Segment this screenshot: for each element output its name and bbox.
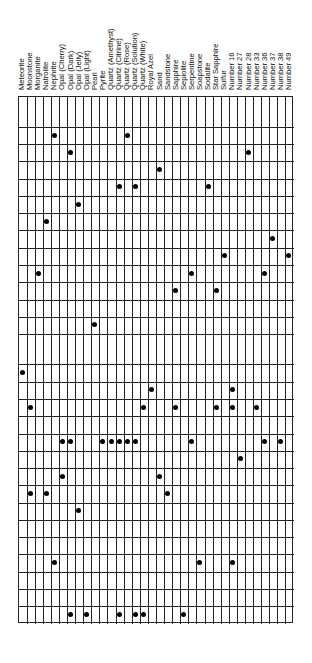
data-dot xyxy=(60,439,65,444)
grid-column-line xyxy=(35,97,36,624)
data-dot xyxy=(262,271,267,276)
chart-grid xyxy=(18,96,293,623)
data-dot xyxy=(117,612,122,617)
grid-row-line xyxy=(19,300,294,301)
data-dot xyxy=(117,439,122,444)
data-dot xyxy=(238,456,243,461)
grid-row-line xyxy=(19,589,294,590)
grid-column-line xyxy=(245,97,246,624)
grid-row-line xyxy=(19,537,294,538)
grid-column-line xyxy=(132,97,133,624)
data-dot xyxy=(52,560,57,565)
data-dot xyxy=(84,612,89,617)
grid-column-line xyxy=(213,97,214,624)
grid-row-line xyxy=(19,230,294,231)
grid-row-line xyxy=(19,282,294,283)
grid-column-line xyxy=(67,97,68,624)
grid-column-line xyxy=(253,97,254,624)
data-dot xyxy=(133,184,138,189)
data-dot xyxy=(206,184,211,189)
grid-column-line xyxy=(43,97,44,624)
grid-column-line xyxy=(188,97,189,624)
data-dot xyxy=(286,253,291,258)
grid-row-line xyxy=(19,317,294,318)
grid-row-line xyxy=(19,503,294,504)
data-dot xyxy=(278,439,283,444)
data-dot xyxy=(230,560,235,565)
data-dot xyxy=(20,370,25,375)
grid-column-line xyxy=(107,97,108,624)
data-dot xyxy=(141,612,146,617)
data-dot xyxy=(133,439,138,444)
data-dot xyxy=(189,271,194,276)
data-dot xyxy=(222,253,227,258)
grid-column-line xyxy=(196,97,197,624)
data-dot xyxy=(214,288,219,293)
data-dot xyxy=(76,202,81,207)
grid-row-line xyxy=(19,606,294,607)
grid-column-line xyxy=(277,97,278,624)
grid-row-line xyxy=(19,416,294,417)
grid-column-line xyxy=(180,97,181,624)
grid-column-line xyxy=(140,97,141,624)
data-dot xyxy=(68,439,73,444)
grid-row-line xyxy=(19,265,294,266)
grid-row-line xyxy=(19,451,294,452)
grid-column-line xyxy=(51,97,52,624)
grid-column-line xyxy=(59,97,60,624)
data-dot xyxy=(133,612,138,617)
data-dot xyxy=(254,405,259,410)
data-dot xyxy=(109,439,114,444)
grid-column-line xyxy=(221,97,222,624)
grid-row-line xyxy=(19,399,294,400)
grid-column-line xyxy=(172,97,173,624)
data-dot xyxy=(270,236,275,241)
grid-column-line xyxy=(116,97,117,624)
grid-row-line xyxy=(19,364,294,365)
data-dot xyxy=(246,150,251,155)
data-dot xyxy=(230,405,235,410)
grid-row-line xyxy=(19,161,294,162)
grid-column-line xyxy=(75,97,76,624)
grid-row-line xyxy=(19,179,294,180)
data-dot xyxy=(181,612,186,617)
data-dot xyxy=(149,387,154,392)
grid-row-line xyxy=(19,334,294,335)
grid-row-line xyxy=(19,127,294,128)
data-dot xyxy=(44,219,49,224)
data-dot xyxy=(157,474,162,479)
grid-row-line xyxy=(19,468,294,469)
data-dot xyxy=(92,322,97,327)
grid-row-line xyxy=(19,248,294,249)
data-dot xyxy=(36,271,41,276)
grid-column-line xyxy=(205,97,206,624)
grid-column-line xyxy=(237,97,238,624)
grid-column-line xyxy=(285,97,286,624)
grid-row-line xyxy=(19,520,294,521)
dot-matrix-chart: MeteoriteMoonstoneMorganiteNatroliteNeph… xyxy=(0,0,312,663)
data-dot xyxy=(262,439,267,444)
column-label: Number 49 xyxy=(285,52,293,90)
grid-column-line xyxy=(124,97,125,624)
data-dot xyxy=(28,491,33,496)
grid-column-line xyxy=(83,97,84,624)
data-dot xyxy=(141,405,146,410)
grid-column-line xyxy=(164,97,165,624)
grid-row-line xyxy=(19,434,294,435)
grid-column-line xyxy=(91,97,92,624)
grid-row-line xyxy=(19,144,294,145)
data-dot xyxy=(173,288,178,293)
data-dot xyxy=(189,439,194,444)
data-dot xyxy=(52,133,57,138)
grid-column-line xyxy=(27,97,28,624)
data-dot xyxy=(197,560,202,565)
data-dot xyxy=(100,439,105,444)
grid-column-line xyxy=(229,97,230,624)
grid-row-line xyxy=(19,196,294,197)
data-dot xyxy=(44,491,49,496)
data-dot xyxy=(173,405,178,410)
data-dot xyxy=(165,491,170,496)
grid-row-line xyxy=(19,554,294,555)
data-dot xyxy=(230,387,235,392)
data-dot xyxy=(28,405,33,410)
